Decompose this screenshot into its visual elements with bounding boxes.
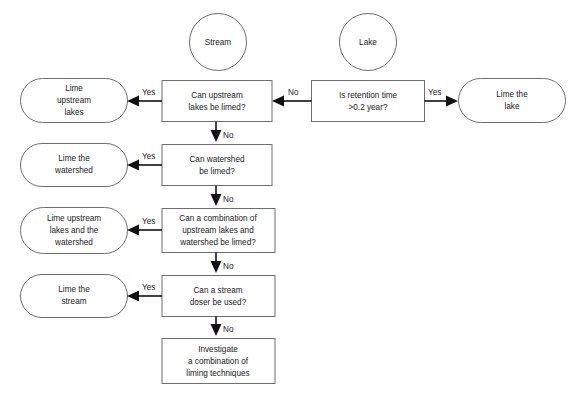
edge-retention-no-arrowhead	[272, 96, 284, 107]
combination-line-2: upstream lakes and	[182, 226, 254, 235]
edge-upstream-lakes-yes-label: Yes	[142, 88, 155, 97]
decision-combination: Can a combination of upstream lakes and …	[162, 209, 275, 253]
combination-line-1: Can a combination of	[179, 214, 257, 223]
outcome-lime-upstream-and-watershed: Lime upstream lakes and the watershed	[21, 208, 128, 254]
lime-watershed-line-2: watershed	[54, 166, 93, 175]
edge-stream-doser-no-arrowhead	[211, 324, 222, 336]
edge-combination-no: No	[211, 253, 234, 274]
edge-combination-yes-label: Yes	[142, 217, 155, 226]
edge-upstream-lakes-yes: Yes	[127, 88, 162, 107]
edge-stream-doser-yes: Yes	[127, 283, 162, 302]
edge-watershed-no-arrowhead	[211, 194, 222, 206]
outcome-lime-lake: Lime the lake	[459, 79, 566, 123]
decision-stream-doser: Can a stream doser be used?	[162, 276, 275, 317]
lime-stream-line-2: stream	[61, 297, 86, 306]
edge-watershed-yes-arrowhead	[127, 160, 139, 171]
retention-time-box	[312, 81, 425, 122]
edge-retention-no-label: No	[288, 88, 299, 97]
lime-stream-box	[21, 275, 128, 318]
lime-upstream-lakes-line-2: upstream	[57, 96, 91, 105]
edge-watershed-no: No	[211, 186, 234, 207]
stream-doser-box	[162, 276, 275, 317]
lime-lake-line-1: Lime the	[496, 90, 528, 99]
upstream-lakes-line-2: lakes be limed?	[189, 103, 246, 112]
flowchart-diagram: Stream Lake Can upstream lakes be limed?…	[0, 0, 582, 396]
edge-upstream-lakes-no: No	[211, 122, 234, 143]
outcome-lime-stream: Lime the stream	[21, 275, 128, 318]
edge-watershed-no-label: No	[223, 195, 234, 204]
edge-combination-yes-arrowhead	[127, 225, 139, 236]
retention-time-line-1: Is retention time	[339, 91, 398, 100]
lake-label: Lake	[359, 38, 377, 47]
edge-upstream-lakes-no-arrowhead	[211, 130, 222, 142]
watershed-line-1: Can watershed	[189, 155, 245, 164]
lime-stream-line-1: Lime the	[58, 285, 90, 294]
edge-combination-yes: Yes	[127, 217, 162, 236]
edge-watershed-yes: Yes	[127, 152, 162, 171]
edge-upstream-lakes-yes-arrowhead	[127, 96, 139, 107]
edge-stream-doser-yes-arrowhead	[127, 291, 139, 302]
investigate-line-3: liming techniques	[186, 369, 249, 378]
edge-retention-yes: Yes	[425, 88, 459, 107]
edge-retention-yes-label: Yes	[428, 88, 441, 97]
start-node-lake: Lake	[340, 14, 397, 71]
edge-stream-doser-no: No	[211, 317, 234, 337]
edge-stream-doser-no-label: No	[223, 325, 234, 334]
stream-label: Stream	[205, 38, 232, 47]
lime-watershed-box	[21, 144, 128, 187]
lime-lake-box	[459, 79, 566, 123]
combination-line-3: watershed be limed?	[179, 238, 256, 247]
decision-watershed: Can watershed be limed?	[162, 145, 272, 186]
watershed-line-2: be limed?	[199, 167, 235, 176]
process-investigate: Investigate a combination of liming tech…	[162, 339, 275, 384]
decision-upstream-lakes: Can upstream lakes be limed?	[162, 81, 272, 122]
edge-retention-no: No	[272, 88, 312, 107]
lime-upstream-and-watershed-line-2: lakes and the	[50, 226, 99, 235]
lime-upstream-and-watershed-line-1: Lime upstream	[47, 214, 101, 223]
investigate-line-2: a combination of	[188, 357, 249, 366]
lime-upstream-lakes-line-1: Lime	[65, 84, 83, 93]
edge-combination-no-label: No	[223, 262, 234, 271]
lime-upstream-and-watershed-line-3: watershed	[54, 238, 93, 247]
decision-retention-time: Is retention time >0.2 year?	[312, 81, 425, 122]
upstream-lakes-line-1: Can upstream	[191, 91, 243, 100]
lime-watershed-line-1: Lime the	[58, 154, 90, 163]
flowchart-canvas: Stream Lake Can upstream lakes be limed?…	[0, 0, 582, 396]
start-node-stream: Stream	[190, 14, 247, 71]
watershed-box	[162, 145, 272, 186]
edge-watershed-yes-label: Yes	[142, 152, 155, 161]
edge-combination-no-arrowhead	[211, 261, 222, 273]
stream-doser-line-2: doser be used?	[190, 298, 247, 307]
outcome-lime-upstream-lakes: Lime upstream lakes	[21, 79, 128, 123]
lime-upstream-lakes-line-3: lakes	[64, 108, 83, 117]
investigate-line-1: Investigate	[198, 345, 238, 354]
retention-time-line-2: >0.2 year?	[349, 103, 388, 112]
edge-upstream-lakes-no-label: No	[223, 131, 234, 140]
edge-stream-doser-yes-label: Yes	[142, 283, 155, 292]
edge-retention-yes-arrowhead	[446, 96, 458, 107]
lime-lake-line-2: lake	[504, 102, 519, 111]
upstream-lakes-box	[162, 81, 272, 122]
outcome-lime-watershed: Lime the watershed	[21, 144, 128, 187]
stream-doser-line-1: Can a stream	[193, 286, 242, 295]
